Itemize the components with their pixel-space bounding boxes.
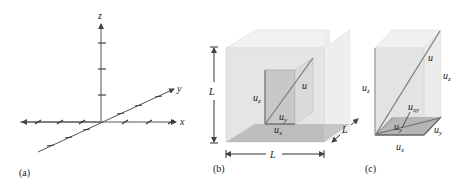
width-label-L: L: [269, 149, 276, 160]
z-axis-label: z: [97, 10, 102, 21]
panel-c-caption: (c): [365, 163, 376, 175]
panel-b-caption: (b): [213, 163, 225, 175]
panel-c-box: u uz uz uxy uy uy ux (c): [362, 30, 451, 175]
label-u: u: [428, 52, 433, 63]
panel-b-cube: u uz uy ux L L L (b): [208, 30, 358, 175]
panel-a-caption: (a): [19, 167, 30, 179]
height-label-L: L: [208, 86, 215, 97]
label-u: u: [302, 80, 307, 91]
x-axis-label: x: [179, 116, 185, 127]
y-axis-label: y: [176, 83, 182, 94]
y-axis: [38, 89, 174, 152]
panel-a-axes: z y x (a): [19, 10, 185, 179]
label-uy-side: uy: [434, 124, 443, 137]
label-ux: ux: [396, 141, 405, 154]
label-uz-right: uz: [443, 70, 451, 83]
label-uz-left: uz: [362, 82, 370, 95]
depth-label-L: L: [341, 124, 348, 135]
figure-canvas: z y x (a) u uz uy ux L: [0, 0, 461, 189]
